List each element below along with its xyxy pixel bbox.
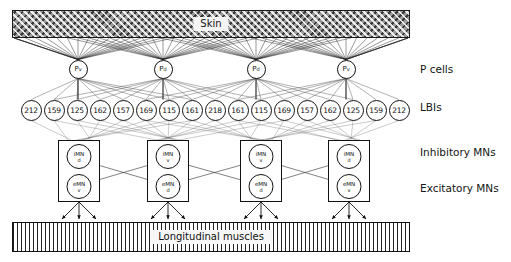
lbi-6: 115 xyxy=(159,100,180,121)
lbi-value: 218 xyxy=(208,106,222,115)
lbi-9: 161 xyxy=(228,100,249,121)
lbi-value: 161 xyxy=(185,106,199,115)
lbi-5: 169 xyxy=(136,100,157,121)
skin-bar: Skin xyxy=(12,10,410,38)
row-label-inhibitory-mns: Inhibitory MNs xyxy=(420,146,496,158)
lbi-3: 162 xyxy=(90,100,111,121)
mn-box-3: iMNdeMNv xyxy=(328,140,370,202)
inhibitory-motor-neuron-3: iMNd xyxy=(337,144,362,169)
mn-subscript: v xyxy=(348,187,351,193)
mn-muscle-arrow-2-0 xyxy=(244,202,261,219)
mn-muscle-arrow-0-2 xyxy=(79,202,96,219)
inhibitory-motor-neuron-2: iMNv xyxy=(249,144,274,169)
lbi-12: 157 xyxy=(297,100,318,121)
lbi-11: 169 xyxy=(274,100,295,121)
lbi-value: 169 xyxy=(277,106,291,115)
lbi-0: 212 xyxy=(21,100,42,121)
figure-canvas: Skin PvPdPdPv 21215912516215716911516121… xyxy=(0,0,511,262)
row-label-p-cells: P cells xyxy=(420,63,453,75)
mn-subscript: d xyxy=(166,187,169,193)
lbi-8: 218 xyxy=(205,100,226,121)
mn-subscript: d xyxy=(347,157,350,163)
excitatory-motor-neuron-1: eMNd xyxy=(156,174,181,199)
lbi-value: 125 xyxy=(346,106,360,115)
lbi-value: 162 xyxy=(323,106,337,115)
lbi-value: 212 xyxy=(392,106,406,115)
mn-muscle-arrow-3-2 xyxy=(349,202,366,219)
p-cell-subscript: v xyxy=(347,65,350,73)
skin-label: Skin xyxy=(193,17,228,31)
mn-box-0: iMNdeMNv xyxy=(58,140,100,202)
lbi-7: 161 xyxy=(182,100,203,121)
mn-subscript: d xyxy=(259,187,262,193)
mn-subscript: d xyxy=(77,157,80,163)
row-label-excitatory-mns: Excitatory MNs xyxy=(420,182,499,194)
lbi-2: 125 xyxy=(67,100,88,121)
mn-box-2: iMNveMNd xyxy=(240,140,282,202)
mn-muscle-arrow-2-2 xyxy=(261,202,278,219)
mn-subscript: v xyxy=(78,187,81,193)
p-cell-2: Pd xyxy=(247,60,266,79)
inhibitory-motor-neuron-0: iMNd xyxy=(67,144,92,169)
lbi-15: 159 xyxy=(366,100,387,121)
lbi-value: 157 xyxy=(300,106,314,115)
mn-muscle-arrow-0-0 xyxy=(62,202,79,219)
lbi-value: 161 xyxy=(231,106,245,115)
lbi-14: 125 xyxy=(343,100,364,121)
mn-muscle-arrow-1-2 xyxy=(168,202,185,219)
lbi-value: 115 xyxy=(254,106,268,115)
lbi-value: 157 xyxy=(116,106,130,115)
p-cell-subscript: d xyxy=(164,65,167,73)
lbi-10: 115 xyxy=(251,100,272,121)
lbi-value: 162 xyxy=(93,106,107,115)
p-cell-3: Pv xyxy=(337,60,356,79)
row-label-lbis: LBIs xyxy=(420,101,442,113)
inhibitory-motor-neuron-1: iMNv xyxy=(156,144,181,169)
excitatory-motor-neuron-3: eMNv xyxy=(337,174,362,199)
lbi-13: 162 xyxy=(320,100,341,121)
lbi-1: 159 xyxy=(44,100,65,121)
excitatory-motor-neuron-0: eMNv xyxy=(67,174,92,199)
mn-subscript: v xyxy=(167,157,170,163)
lbi-value: 125 xyxy=(70,106,84,115)
p-cell-1: Pd xyxy=(154,60,173,79)
p-cell-0: Pv xyxy=(69,60,88,79)
lbi-16: 212 xyxy=(389,100,410,121)
lbi-value: 159 xyxy=(47,106,61,115)
lbi-value: 212 xyxy=(24,106,38,115)
muscle-label: Longitudinal muscles xyxy=(150,230,272,244)
mn-muscle-arrow-3-0 xyxy=(332,202,349,219)
mn-muscle-arrow-1-0 xyxy=(151,202,168,219)
p-cell-subscript: v xyxy=(79,65,82,73)
mn-subscript: v xyxy=(260,157,263,163)
lbi-value: 115 xyxy=(162,106,176,115)
longitudinal-muscle-bar: Longitudinal muscles xyxy=(12,222,410,252)
p-cell-subscript: d xyxy=(257,65,260,73)
mn-box-1: iMNveMNd xyxy=(147,140,189,202)
lbi-4: 157 xyxy=(113,100,134,121)
lbi-value: 169 xyxy=(139,106,153,115)
excitatory-motor-neuron-2: eMNd xyxy=(249,174,274,199)
lbi-value: 159 xyxy=(369,106,383,115)
